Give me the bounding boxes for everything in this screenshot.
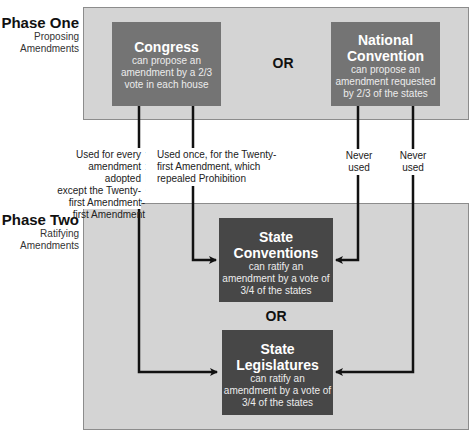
state-legislatures-title-line2: Legislatures: [222, 357, 333, 373]
label-left-line3: except the Twenty-: [56, 185, 141, 197]
label-convention-to-conventions-line2: used: [343, 162, 375, 174]
state-legislatures-desc-line1: can ratify an: [222, 373, 333, 385]
state-conventions-desc-line3: 3/4 of the states: [219, 285, 333, 297]
label-convention-to-legislatures-line2: used: [397, 162, 429, 174]
state-legislatures-title-line1: State: [222, 341, 333, 357]
label-left-line2: amendment adopted: [56, 161, 141, 185]
label-congress-to-conventions-line3: repealed Prohibition: [157, 173, 287, 185]
state-legislatures-desc-line2: amendment by a vote of: [222, 385, 333, 397]
state-conventions-title-line1: State: [219, 229, 333, 245]
label-congress-to-legislatures-text: Used for every amendment adopted except …: [56, 149, 141, 209]
state-conventions-box: State Conventions can ratify an amendmen…: [219, 218, 333, 302]
arrow-convention-to-legislatures: [336, 106, 413, 372]
label-left-line4: first Amendment: [56, 197, 141, 209]
label-convention-to-legislatures: Never used: [397, 149, 429, 175]
label-congress-to-conventions-line2: first Amendment, which: [157, 161, 287, 173]
state-conventions-desc-line2: amendment by a vote of: [219, 273, 333, 285]
state-conventions-desc-line1: can ratify an: [219, 261, 333, 273]
label-congress-to-conventions: Used once, for the Twenty- first Amendme…: [157, 149, 287, 185]
state-legislatures-desc-line3: 3/4 of the states: [222, 397, 333, 409]
label-congress-to-conventions-line1: Used once, for the Twenty-: [157, 149, 287, 161]
label-congress-to-legislatures-line4: first Amendment: [62, 209, 145, 221]
arrow-convention-to-conventions: [336, 106, 358, 260]
state-conventions-title-line2: Conventions: [219, 245, 333, 261]
label-convention-to-legislatures-line1: Never: [397, 150, 429, 162]
label-convention-to-conventions: Never used: [343, 149, 375, 175]
label-left-line1: Used for every: [56, 149, 141, 161]
state-legislatures-box: State Legislatures can ratify an amendme…: [222, 330, 333, 415]
arrow-congress-to-legislatures: [139, 106, 217, 372]
or-label-ratification: OR: [261, 308, 291, 324]
label-convention-to-conventions-line1: Never: [343, 150, 375, 162]
